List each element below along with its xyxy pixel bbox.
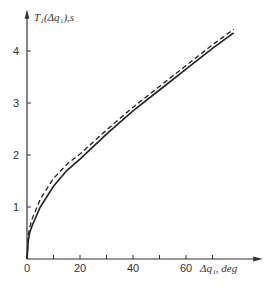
x-axis-label: Δq₁, deg [199, 262, 238, 274]
svg-text:20: 20 [74, 262, 86, 274]
chart: 0204060 1234 T₁(Δq₁),s Δq₁, deg [0, 0, 272, 296]
svg-text:60: 60 [180, 262, 192, 274]
dashed-curve [27, 29, 234, 259]
y-axis-label: T₁(Δq₁),s [34, 11, 74, 24]
svg-text:3: 3 [13, 97, 19, 109]
svg-text:4: 4 [13, 45, 19, 57]
svg-text:1: 1 [13, 201, 19, 213]
y-ticks: 1234 [13, 45, 31, 213]
svg-text:2: 2 [13, 149, 19, 161]
svg-text:40: 40 [127, 262, 139, 274]
plot-svg: 0204060 1234 T₁(Δq₁),s Δq₁, deg [0, 0, 272, 296]
solid-curve [27, 33, 234, 259]
svg-text:0: 0 [24, 262, 30, 274]
x-ticks: 0204060 [24, 255, 213, 274]
